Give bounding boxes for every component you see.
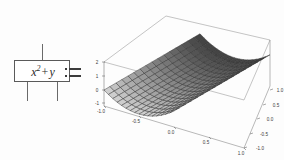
lead-wire-bottom-left (27, 82, 28, 101)
y-tick-label: -1.0 (256, 146, 264, 151)
surface-plot-svg: 2 1 0 -1 (92, 0, 284, 160)
x-tick-label: -1.0 (97, 109, 105, 114)
expression-operand: y (49, 65, 54, 79)
y-tick-label: 0.5 (273, 103, 280, 108)
assign-bar-lower (69, 75, 81, 77)
expression-exponent: 2 (37, 64, 41, 73)
z-axis: 2 1 0 -1 (95, 60, 105, 106)
z-tick-label: 0 (96, 88, 99, 93)
assign-dot-upper (65, 68, 67, 70)
assign-bar-upper (69, 68, 81, 70)
z-tick-label: -1 (95, 101, 100, 106)
y-tick-label: 1.0 (277, 88, 284, 93)
x-tick-label: 0.5 (203, 140, 210, 145)
function-expression: x2+y (15, 61, 71, 83)
x-axis: -1.0 -0.5 0.0 0.5 1.0 (97, 106, 246, 156)
z-tick-group: 2 1 0 -1 (95, 60, 100, 106)
z-tick-label: 1 (96, 74, 99, 79)
mesh-cell (260, 55, 270, 60)
screenshot-root: x2+y (0, 0, 284, 160)
y-axis: -1.0 -0.5 0.0 0.5 1.0 (244, 88, 284, 151)
surface-plot[interactable]: 2 1 0 -1 (92, 0, 284, 160)
y-tick-label: 0.0 (267, 117, 274, 122)
x-tick-label: 0.0 (168, 130, 175, 135)
x-tick-label: 1.0 (238, 151, 245, 156)
z-tick-marks (102, 62, 105, 103)
function-box[interactable]: x2+y (14, 60, 70, 82)
z-tick-label: 2 (96, 60, 99, 65)
lead-wire-bottom-right (57, 82, 58, 101)
assignment-operator (64, 64, 86, 82)
surface-mesh (104, 34, 270, 116)
x-tick-label: -0.5 (132, 119, 140, 124)
assign-dot-lower (65, 75, 67, 77)
y-tick-label: -0.5 (260, 132, 268, 137)
lead-wire-top (42, 44, 43, 60)
